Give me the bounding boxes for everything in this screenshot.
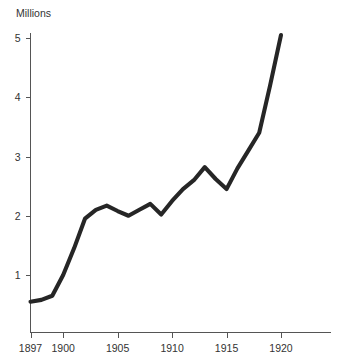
y-tick-label: 3 xyxy=(15,151,21,163)
y-tick-label: 1 xyxy=(15,269,21,281)
line-chart: Millions 12345 189719001905191019151920 xyxy=(0,0,343,363)
x-tick-label: 1900 xyxy=(51,342,75,354)
x-tick-label: 1915 xyxy=(215,342,239,354)
x-tick-label: 1920 xyxy=(269,342,293,354)
y-axis-title: Millions xyxy=(16,7,51,19)
y-axis-title-group: Millions xyxy=(16,7,51,19)
y-axis-ticks: 12345 xyxy=(15,32,31,281)
x-tick-label: 1905 xyxy=(106,342,130,354)
chart-container: Millions 12345 189719001905191019151920 xyxy=(0,0,343,363)
y-tick-label: 4 xyxy=(15,91,21,103)
x-axis-ticks: 189719001905191019151920 xyxy=(19,333,293,355)
x-tick-label: 1897 xyxy=(19,342,43,354)
y-tick-label: 5 xyxy=(15,32,21,44)
data-series-line xyxy=(31,35,282,302)
x-tick-label: 1910 xyxy=(160,342,184,354)
y-tick-label: 2 xyxy=(15,210,21,222)
